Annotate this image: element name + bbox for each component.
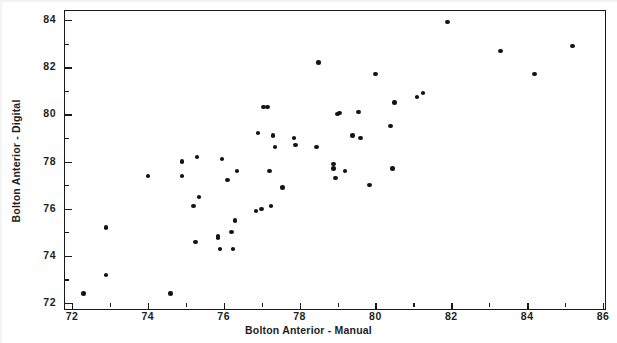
x-tick-minor — [338, 303, 339, 307]
x-tick-major — [224, 303, 225, 310]
x-tick-minor — [413, 303, 414, 307]
y-tick-major — [65, 303, 72, 304]
x-tick-minor — [262, 303, 263, 307]
scan-edge-left — [0, 0, 2, 343]
data-point — [193, 240, 198, 244]
data-point — [337, 111, 342, 115]
y-tick-label: 72 — [30, 296, 56, 308]
x-tick-minor — [110, 303, 111, 307]
y-tick-label: 80 — [30, 107, 56, 119]
x-tick-label: 80 — [360, 310, 390, 322]
x-tick-minor — [565, 303, 566, 307]
x-tick-label: 78 — [285, 310, 315, 322]
data-point — [333, 176, 338, 180]
scan-edge-top — [0, 0, 617, 2]
y-tick-label: 84 — [30, 13, 56, 25]
data-point — [356, 110, 361, 114]
data-point — [570, 44, 575, 48]
data-point — [271, 133, 276, 137]
data-point — [233, 218, 238, 222]
x-tick-major — [72, 303, 73, 310]
data-point — [267, 169, 272, 173]
y-tick-major — [65, 114, 72, 115]
y-tick-minor — [65, 91, 69, 92]
x-tick-major — [603, 303, 604, 310]
scatter-plot-figure: 727476788082848672747678808284 Bolton An… — [0, 0, 617, 343]
data-point — [358, 136, 363, 140]
y-tick-major — [65, 67, 72, 68]
y-tick-minor — [65, 185, 69, 186]
x-tick-major — [148, 303, 149, 310]
data-point — [392, 100, 397, 104]
x-tick-minor — [186, 303, 187, 307]
x-tick-label: 76 — [209, 310, 239, 322]
data-point — [316, 60, 321, 64]
data-point — [180, 159, 185, 163]
y-tick-label: 74 — [30, 249, 56, 261]
x-tick-label: 74 — [133, 310, 163, 322]
y-tick-major — [65, 256, 72, 257]
x-axis-title: Bolton Anterior - Manual — [0, 324, 617, 336]
x-tick-major — [300, 303, 301, 310]
x-tick-label: 82 — [436, 310, 466, 322]
data-point — [390, 166, 395, 170]
x-tick-label: 72 — [57, 310, 87, 322]
data-point — [265, 105, 270, 109]
data-point — [350, 133, 355, 137]
y-tick-minor — [65, 279, 69, 280]
x-tick-major — [451, 303, 452, 310]
data-point — [331, 166, 336, 170]
y-tick-label: 82 — [30, 60, 56, 72]
data-point — [180, 174, 185, 178]
y-tick-label: 78 — [30, 155, 56, 167]
x-tick-minor — [489, 303, 490, 307]
data-point — [229, 230, 234, 234]
data-point — [168, 291, 173, 295]
data-point — [292, 136, 297, 140]
data-point — [218, 247, 223, 251]
y-tick-major — [65, 209, 72, 210]
plot-area-frame — [64, 10, 606, 310]
y-tick-label: 76 — [30, 202, 56, 214]
x-tick-label: 86 — [588, 310, 617, 322]
x-tick-major — [375, 303, 376, 310]
data-point — [498, 49, 503, 53]
data-point — [331, 162, 336, 166]
data-point — [280, 185, 285, 189]
y-axis-title: Bolton Anterior - Digital — [10, 71, 22, 251]
data-point — [146, 174, 151, 178]
x-tick-major — [527, 303, 528, 310]
y-tick-minor — [65, 138, 69, 139]
data-point — [216, 234, 221, 238]
x-tick-label: 84 — [512, 310, 542, 322]
data-point — [104, 225, 109, 229]
y-tick-major — [65, 162, 72, 163]
data-point — [81, 291, 86, 295]
data-point — [259, 207, 264, 211]
y-tick-minor — [65, 232, 69, 233]
y-tick-minor — [65, 44, 69, 45]
y-tick-major — [65, 20, 72, 21]
